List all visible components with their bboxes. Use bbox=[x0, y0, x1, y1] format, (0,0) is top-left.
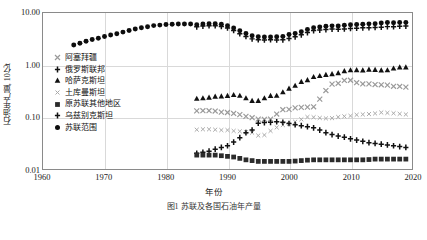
data-point bbox=[250, 127, 255, 133]
data-point bbox=[336, 81, 341, 86]
data-point bbox=[256, 134, 260, 138]
data-point bbox=[311, 74, 317, 79]
data-point bbox=[379, 24, 384, 30]
data-point bbox=[330, 116, 334, 120]
x-axis-title: 年份 bbox=[0, 185, 427, 197]
data-point bbox=[366, 67, 372, 72]
data-point bbox=[268, 159, 273, 164]
figure-caption: 图1 苏联及各国石油年产量 bbox=[0, 200, 427, 211]
data-point bbox=[354, 67, 360, 72]
data-point bbox=[385, 83, 390, 88]
data-point bbox=[305, 77, 311, 82]
legend-item[interactable]: 乌兹别克斯坦 bbox=[53, 110, 149, 122]
data-point bbox=[262, 95, 268, 100]
legend-item[interactable]: 哈萨克斯坦 bbox=[53, 75, 149, 87]
data-point bbox=[360, 67, 366, 72]
legend-label: 乌兹别克斯坦 bbox=[65, 110, 113, 122]
data-point bbox=[385, 157, 390, 162]
legend-label: 原苏联其他地区 bbox=[65, 98, 121, 110]
circle-icon bbox=[53, 123, 62, 132]
data-point bbox=[145, 24, 150, 29]
data-point bbox=[274, 119, 279, 125]
data-point bbox=[280, 119, 285, 125]
legend-item[interactable]: 原苏联其他地区 bbox=[53, 98, 149, 110]
legend-item[interactable]: 苏联范围 bbox=[53, 122, 149, 134]
data-point bbox=[225, 154, 230, 159]
data-point bbox=[360, 157, 365, 162]
data-point bbox=[207, 108, 212, 113]
data-point bbox=[243, 95, 249, 100]
data-point bbox=[299, 123, 304, 129]
data-point bbox=[293, 105, 298, 110]
data-point bbox=[293, 122, 298, 128]
data-point bbox=[255, 98, 261, 103]
data-point bbox=[379, 141, 384, 147]
data-point bbox=[55, 66, 60, 72]
data-point bbox=[274, 112, 279, 117]
legend-label: 土库曼斯坦 bbox=[65, 87, 105, 99]
data-point bbox=[379, 157, 384, 162]
data-point bbox=[249, 98, 255, 103]
data-point bbox=[379, 82, 384, 87]
data-point bbox=[360, 138, 365, 144]
data-point bbox=[391, 24, 396, 30]
data-point bbox=[287, 159, 292, 164]
data-point bbox=[200, 108, 205, 113]
data-point bbox=[311, 125, 316, 131]
data-point bbox=[231, 139, 236, 145]
data-point bbox=[292, 83, 298, 88]
data-point bbox=[96, 36, 101, 41]
legend-label: 阿塞拜疆 bbox=[65, 52, 97, 64]
data-point bbox=[269, 129, 273, 133]
legend-item[interactable]: 俄罗斯联邦 bbox=[53, 64, 149, 76]
data-point bbox=[262, 159, 267, 164]
data-point bbox=[243, 114, 248, 119]
data-point bbox=[237, 135, 242, 141]
data-point bbox=[84, 39, 89, 44]
legend-label: 哈萨克斯坦 bbox=[65, 75, 105, 87]
data-point bbox=[268, 93, 274, 98]
data-point bbox=[200, 95, 206, 100]
data-point bbox=[280, 107, 285, 112]
data-point bbox=[397, 64, 403, 69]
legend-item[interactable]: 阿塞拜疆 bbox=[53, 52, 149, 64]
data-point bbox=[231, 92, 237, 97]
legend-item[interactable]: 土库曼斯坦 bbox=[53, 87, 149, 99]
data-point bbox=[342, 68, 348, 73]
data-point bbox=[397, 144, 402, 150]
data-point bbox=[311, 104, 316, 109]
data-point bbox=[237, 93, 243, 98]
data-point bbox=[232, 129, 236, 133]
data-point bbox=[71, 42, 76, 47]
data-point bbox=[317, 73, 323, 78]
data-point bbox=[366, 81, 371, 86]
plus-icon bbox=[53, 111, 62, 120]
data-point bbox=[361, 112, 365, 116]
data-point bbox=[219, 110, 224, 115]
data-point bbox=[55, 125, 60, 130]
data-point bbox=[108, 33, 113, 38]
data-point bbox=[176, 22, 181, 27]
data-point bbox=[397, 84, 402, 89]
data-point bbox=[305, 158, 310, 163]
data-point bbox=[330, 157, 335, 162]
data-point bbox=[274, 93, 280, 98]
data-point bbox=[77, 41, 82, 46]
plus-icon bbox=[53, 65, 62, 74]
data-point bbox=[311, 157, 316, 162]
data-point bbox=[55, 55, 60, 60]
data-point bbox=[139, 25, 144, 30]
data-point bbox=[299, 79, 305, 84]
data-point bbox=[397, 157, 402, 162]
x-tick-label: 2000 bbox=[281, 172, 298, 182]
data-point bbox=[373, 25, 378, 31]
data-point bbox=[250, 158, 255, 163]
data-point bbox=[219, 93, 225, 98]
data-point bbox=[329, 132, 334, 138]
data-point bbox=[305, 124, 310, 130]
x-axis-ticks: 1960197019801990200020102020 bbox=[0, 172, 427, 186]
data-point bbox=[323, 72, 329, 77]
data-point bbox=[151, 23, 156, 28]
data-point bbox=[170, 22, 175, 27]
data-point bbox=[238, 129, 242, 133]
